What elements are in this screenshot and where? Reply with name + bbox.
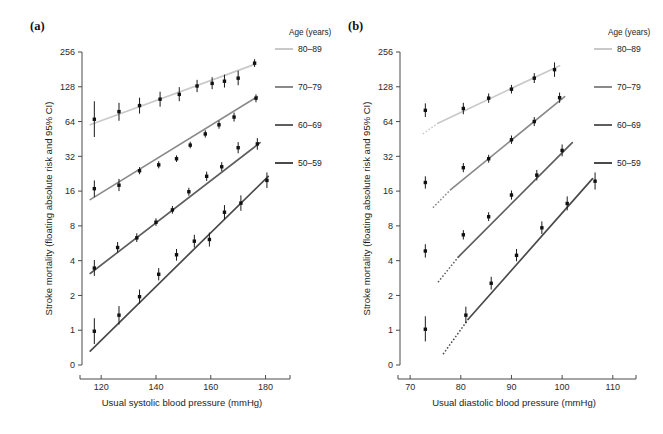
fit-line-a-0 xyxy=(90,64,254,124)
data-point-a-3-0 xyxy=(93,330,96,333)
data-point-b-2-2 xyxy=(487,215,490,218)
y-tick-label-b-64: 64 xyxy=(383,117,393,127)
data-point-a-0-5 xyxy=(195,84,198,87)
y-tick-label-a-2: 2 xyxy=(70,291,75,301)
y-tick-label-b-128: 128 xyxy=(378,82,393,92)
data-point-a-3-1 xyxy=(117,313,120,316)
y-tick-label-b-0: 0 xyxy=(388,360,393,370)
y-tick-label-b-32: 32 xyxy=(383,152,393,162)
fit-line-b-0 xyxy=(438,66,560,123)
data-point-a-0-6 xyxy=(210,82,213,85)
data-point-a-0-4 xyxy=(178,93,181,96)
data-point-b-0-2 xyxy=(487,96,490,99)
y-tick-label-a-8: 8 xyxy=(70,221,75,231)
fit-line-a-1 xyxy=(90,97,257,200)
x-tick-label-b-100: 100 xyxy=(555,382,570,392)
data-point-a-2-7 xyxy=(220,165,223,168)
series-a-50-59 xyxy=(90,172,268,351)
y-tick-label-b-4: 4 xyxy=(388,256,393,266)
data-point-a-1-1 xyxy=(117,184,120,187)
x-tick-label-b-90: 90 xyxy=(506,382,516,392)
data-point-b-2-1 xyxy=(462,233,465,236)
y-tick-label-b-256: 256 xyxy=(378,47,393,57)
legend-label-b-3: 50–59 xyxy=(617,158,641,168)
legend-title-b: Age (years) xyxy=(608,28,651,37)
data-point-a-0-0 xyxy=(93,118,96,121)
data-point-b-1-1 xyxy=(462,166,465,169)
data-point-a-1-6 xyxy=(204,132,207,135)
y-tick-label-a-1: 1 xyxy=(70,325,75,335)
x-tick-label-b-70: 70 xyxy=(405,382,415,392)
y-tick-label-a-0: 0 xyxy=(70,360,75,370)
data-point-a-1-3 xyxy=(157,163,160,166)
data-point-a-0-7 xyxy=(223,80,226,83)
data-point-b-3-3 xyxy=(515,254,518,257)
data-point-b-3-4 xyxy=(540,226,543,229)
data-point-a-3-7 xyxy=(223,211,226,214)
data-point-a-3-5 xyxy=(193,239,196,242)
data-point-a-1-2 xyxy=(138,169,141,172)
fit-line-extension-b-0 xyxy=(423,123,438,134)
data-point-b-3-6 xyxy=(593,179,596,182)
data-point-b-2-3 xyxy=(510,193,513,196)
y-tick-label-a-256: 256 xyxy=(60,47,75,57)
y-tick-label-b-2: 2 xyxy=(388,291,393,301)
panel-label-a: (a) xyxy=(30,19,45,33)
data-point-a-1-7 xyxy=(217,123,220,126)
panel-label-b: (b) xyxy=(348,19,363,33)
data-point-a-3-8 xyxy=(239,201,242,204)
data-point-b-2-0 xyxy=(424,249,427,252)
data-point-b-3-5 xyxy=(566,202,569,205)
data-point-b-1-2 xyxy=(487,157,490,160)
data-point-a-2-0 xyxy=(93,266,96,269)
series-a-70-79 xyxy=(90,94,257,199)
data-point-b-1-4 xyxy=(533,120,536,123)
data-point-a-3-6 xyxy=(208,238,211,241)
data-point-b-0-3 xyxy=(510,87,513,90)
fit-line-b-2 xyxy=(458,143,572,257)
fit-line-b-3 xyxy=(468,179,592,319)
data-point-b-1-3 xyxy=(510,138,513,141)
data-point-a-2-6 xyxy=(205,175,208,178)
y-axis-title-b: Stroke mortality (floating absolute risk… xyxy=(361,102,372,316)
y-tick-label-b-1: 1 xyxy=(388,325,393,335)
data-point-a-2-5 xyxy=(187,190,190,193)
legend-label-a-0: 80–89 xyxy=(298,44,322,54)
data-point-a-1-0 xyxy=(93,187,96,190)
figure-container: 01248163264128256120140160180Usual systo… xyxy=(0,0,663,434)
series-a-80-89 xyxy=(90,59,256,137)
data-point-a-0-8 xyxy=(236,76,239,79)
data-point-b-0-0 xyxy=(424,109,427,112)
data-point-a-0-1 xyxy=(117,110,120,113)
legend-label-a-3: 50–59 xyxy=(298,158,322,168)
fit-line-extension-b-2 xyxy=(438,257,458,282)
x-axis-title-b: Usual diastolic blood pressure (mmHg) xyxy=(432,397,596,408)
data-point-b-2-5 xyxy=(560,149,563,152)
data-point-a-0-2 xyxy=(138,104,141,107)
x-tick-label-b-110: 110 xyxy=(606,382,620,392)
legend-label-a-1: 70–79 xyxy=(298,82,322,92)
data-point-a-0-9 xyxy=(253,61,256,64)
data-point-b-3-1 xyxy=(464,313,467,316)
x-tick-label-a-160: 160 xyxy=(203,382,218,392)
data-point-b-0-5 xyxy=(553,68,556,71)
data-point-b-3-0 xyxy=(424,328,427,331)
legend-label-b-1: 70–79 xyxy=(617,82,641,92)
y-tick-label-b-8: 8 xyxy=(388,221,393,231)
series-b-80-89 xyxy=(423,62,560,134)
data-point-a-1-8 xyxy=(232,115,235,118)
data-point-b-3-2 xyxy=(490,282,493,285)
x-tick-label-b-80: 80 xyxy=(456,382,466,392)
legend-label-b-0: 80–89 xyxy=(617,44,641,54)
y-axis-title-a: Stroke mortality (floating absolute risk… xyxy=(43,102,54,316)
fit-line-extension-b-1 xyxy=(433,190,451,208)
data-point-a-2-8 xyxy=(236,146,239,149)
data-point-a-3-3 xyxy=(157,273,160,276)
data-point-b-0-4 xyxy=(533,76,536,79)
x-axis-title-a: Usual systolic blood pressure (mmHg) xyxy=(102,397,263,408)
legend-label-b-2: 60–69 xyxy=(617,120,641,130)
series-b-60-69 xyxy=(424,143,573,283)
data-point-a-2-2 xyxy=(135,236,138,239)
y-tick-label-a-4: 4 xyxy=(70,256,75,266)
series-b-50-59 xyxy=(424,172,597,354)
